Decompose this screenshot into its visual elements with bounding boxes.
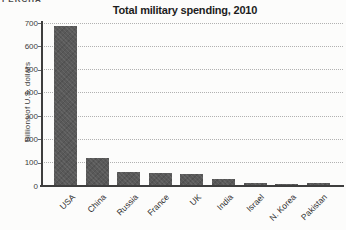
y-tick-label-300: 300 — [0, 112, 38, 121]
y-tick-label-200: 200 — [0, 135, 38, 144]
bar-china — [86, 158, 109, 186]
y-tick-label-700: 700 — [0, 19, 38, 28]
y-tick-label-400: 400 — [0, 88, 38, 97]
y-tick-mark-700 — [38, 23, 41, 24]
gridline-200 — [42, 139, 343, 140]
gridline-700 — [42, 23, 343, 24]
x-axis-line — [40, 185, 344, 187]
y-tick-mark-100 — [38, 163, 41, 164]
y-axis-line — [41, 21, 43, 187]
gridline-400 — [42, 92, 343, 93]
gridline-600 — [42, 46, 343, 47]
y-tick-mark-500 — [38, 70, 41, 71]
y-tick-label-0: 0 — [0, 182, 38, 191]
y-tick-mark-400 — [38, 93, 41, 94]
y-tick-mark-600 — [38, 46, 41, 47]
y-tick-label-500: 500 — [0, 65, 38, 74]
y-tick-mark-200 — [38, 139, 41, 140]
scanned-bar-chart-figure: PERCHA Total military spending, 2010 Bil… — [0, 0, 346, 230]
gridline-500 — [42, 69, 343, 70]
gridline-300 — [42, 116, 343, 117]
bar-usa — [54, 26, 77, 186]
bar-russia — [117, 172, 140, 186]
y-tick-label-100: 100 — [0, 158, 38, 167]
chart-title: Total military spending, 2010 — [30, 4, 340, 16]
y-tick-mark-300 — [38, 116, 41, 117]
y-tick-label-600: 600 — [0, 42, 38, 51]
